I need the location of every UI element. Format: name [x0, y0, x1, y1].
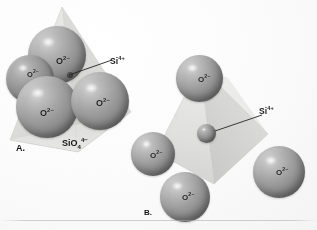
panel-b-silicon-ion [197, 124, 216, 143]
panel-a-letter: A. [16, 144, 25, 153]
clipped-caption-strip [0, 220, 317, 230]
panel-b-oxygen-sphere-lower-left [131, 132, 175, 176]
panel-b-oxygen-sphere-right [253, 146, 305, 198]
panel-b-oxygen-sphere-bottom [160, 172, 210, 222]
panel-b-oxygen-sphere-apex [176, 55, 223, 102]
panel-a-formula-caption: SiO44− [62, 137, 88, 150]
panel-a-oxygen-sphere-front-right [71, 72, 129, 130]
figure-canvas: O2− O2− O2− O2− Si4+ A. SiO44− [0, 0, 317, 230]
panel-b-letter: B. [144, 209, 152, 217]
panel-a-oxygen-sphere-front-left [16, 76, 78, 138]
panel-a-silicon-ion [67, 72, 73, 78]
